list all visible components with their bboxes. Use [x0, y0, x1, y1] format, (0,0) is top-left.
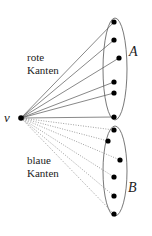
set-b-label: B: [128, 180, 137, 195]
set-a-ellipse: [103, 18, 127, 120]
blue-edges: [21, 118, 120, 214]
vertex-a: [111, 79, 116, 84]
blue-edge: [21, 118, 114, 214]
vertex-a: [116, 55, 121, 60]
diagram-svg: A B v rote Kanten blaue Kanten: [0, 0, 152, 236]
red-edge: [21, 93, 114, 118]
blue-edges-label-line1: blaue: [27, 154, 51, 166]
set-a-label: A: [128, 44, 138, 59]
vertex-b: [105, 138, 110, 143]
blue-edges-label-line2: Kanten: [27, 167, 59, 179]
red-edges-label-line1: rote: [27, 51, 44, 63]
blue-edge: [21, 118, 108, 141]
red-edge: [21, 82, 114, 118]
vertex-a: [111, 90, 116, 95]
vertex-v-label: v: [4, 110, 10, 125]
red-edge: [21, 117, 114, 118]
vertex-b: [111, 211, 116, 216]
vertex-b: [111, 174, 116, 179]
red-edges-label-line2: Kanten: [27, 64, 59, 76]
vertex-v: [18, 115, 24, 121]
vertex-a: [111, 19, 116, 24]
vertex-b: [111, 127, 116, 132]
vertex-b: [111, 193, 116, 198]
vertex-a: [111, 37, 116, 42]
vertex-b: [117, 157, 122, 162]
bipartite-edge-diagram: A B v rote Kanten blaue Kanten: [0, 0, 152, 236]
vertex-a: [111, 114, 116, 119]
